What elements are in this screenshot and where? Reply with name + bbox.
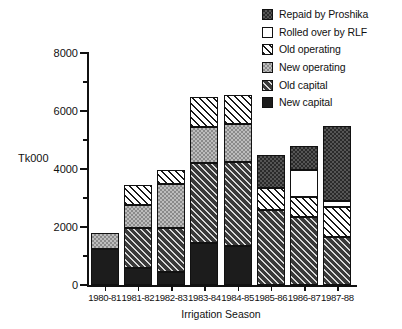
- y-axis-tick-label: 2000: [24, 222, 78, 233]
- bar-segment: [290, 170, 318, 196]
- x-axis-title: Irrigation Season: [88, 308, 354, 320]
- bar-segment: [157, 272, 185, 285]
- bar-segment: [323, 201, 351, 207]
- y-axis-tick-label: 0: [24, 280, 78, 291]
- y-axis-tick: [80, 168, 88, 170]
- legend-item[interactable]: Rolled over by RLF: [262, 24, 400, 42]
- y-axis-tick-labels: 02000400060008000: [22, 0, 78, 329]
- y-axis-tick-label: 8000: [24, 48, 78, 59]
- bar-segment: [124, 185, 152, 205]
- y-axis-tick: [80, 52, 88, 54]
- x-axis-tick: [271, 286, 273, 291]
- legend-item-label: Rolled over by RLF: [279, 27, 367, 38]
- bar-segment: [157, 184, 185, 229]
- bar-segment: [190, 163, 218, 243]
- x-axis-tick-label: 1987-88: [310, 292, 364, 303]
- legend-item[interactable]: Repaid by Proshika: [262, 6, 400, 24]
- x-axis-tick: [204, 286, 206, 291]
- bar-segment: [224, 124, 252, 162]
- stacked-bar-chart: Repaid by ProshikaRolled over by RLFOld …: [0, 0, 402, 329]
- y-axis-title: Tk000: [18, 152, 49, 164]
- bar-segment: [190, 97, 218, 127]
- bar-segment: [290, 146, 318, 171]
- legend-swatch-icon: [262, 27, 273, 38]
- bar-segment: [323, 126, 351, 201]
- x-axis-tick: [105, 286, 107, 291]
- y-axis-tick: [80, 110, 88, 112]
- bar-segment: [157, 170, 185, 183]
- bar-segment: [224, 95, 252, 124]
- y-axis-tick: [80, 226, 88, 228]
- bar-segment: [157, 228, 185, 272]
- x-axis-tick: [238, 286, 240, 291]
- bar-segment: [190, 127, 218, 163]
- bar-segment: [257, 188, 285, 210]
- bar-segment: [290, 197, 318, 217]
- bar-segment: [124, 205, 152, 228]
- plot-area: [88, 53, 354, 285]
- bar-segment: [124, 228, 152, 267]
- bar-segment: [224, 162, 252, 246]
- x-axis-tick: [171, 286, 173, 291]
- x-axis-tick: [138, 286, 140, 291]
- bar-segment: [224, 246, 252, 285]
- bar-segment: [290, 217, 318, 285]
- legend-swatch-icon: [262, 9, 273, 20]
- bar-segment: [91, 249, 119, 285]
- bar-segment: [257, 155, 285, 188]
- bar-segment: [190, 243, 218, 285]
- bar-segment: [257, 210, 285, 285]
- bar-segment: [323, 207, 351, 237]
- x-axis-line: [87, 285, 357, 287]
- x-axis-tick: [304, 286, 306, 291]
- legend-item-label: Repaid by Proshika: [279, 9, 368, 20]
- bar-segment: [91, 233, 119, 249]
- y-axis-tick-label: 4000: [24, 164, 78, 175]
- bar-segment: [323, 237, 351, 285]
- y-axis-tick-label: 6000: [24, 106, 78, 117]
- x-axis-tick: [337, 286, 339, 291]
- bar-segment: [124, 268, 152, 285]
